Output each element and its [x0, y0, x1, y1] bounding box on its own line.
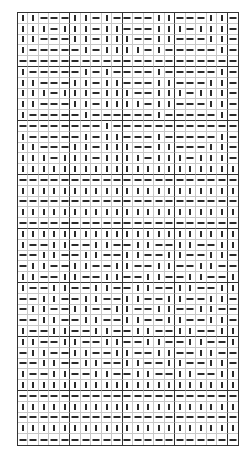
grid-cell[interactable] — [196, 164, 206, 175]
grid-cell[interactable] — [154, 13, 164, 24]
grid-cell[interactable] — [91, 369, 101, 380]
grid-cell[interactable] — [112, 402, 122, 413]
grid-cell[interactable] — [123, 35, 133, 46]
grid-cell[interactable] — [102, 110, 112, 121]
grid-cell[interactable] — [70, 337, 80, 348]
grid-cell[interactable] — [49, 89, 59, 100]
grid-cell[interactable] — [28, 261, 38, 272]
grid-cell[interactable] — [49, 99, 59, 110]
grid-cell[interactable] — [49, 434, 59, 445]
grid-cell[interactable] — [175, 186, 185, 197]
grid-cell[interactable] — [217, 153, 227, 164]
grid-cell[interactable] — [165, 294, 175, 305]
grid-cell[interactable] — [91, 283, 101, 294]
grid-cell[interactable] — [207, 326, 217, 337]
grid-cell[interactable] — [165, 380, 175, 391]
grid-cell[interactable] — [133, 326, 143, 337]
grid-cell[interactable] — [112, 132, 122, 143]
grid-cell[interactable] — [91, 56, 101, 67]
grid-cell[interactable] — [60, 434, 70, 445]
grid-cell[interactable] — [39, 337, 49, 348]
grid-cell[interactable] — [112, 348, 122, 359]
grid-cell[interactable] — [18, 348, 28, 359]
grid-cell[interactable] — [91, 153, 101, 164]
grid-cell[interactable] — [217, 391, 227, 402]
grid-cell[interactable] — [112, 24, 122, 35]
grid-cell[interactable] — [144, 153, 154, 164]
grid-cell[interactable] — [165, 240, 175, 251]
grid-cell[interactable] — [60, 423, 70, 434]
grid-cell[interactable] — [133, 89, 143, 100]
grid-cell[interactable] — [154, 423, 164, 434]
grid-cell[interactable] — [39, 369, 49, 380]
grid-cell[interactable] — [228, 402, 238, 413]
grid-cell[interactable] — [154, 110, 164, 121]
grid-cell[interactable] — [112, 380, 122, 391]
grid-cell[interactable] — [186, 45, 196, 56]
grid-cell[interactable] — [186, 67, 196, 78]
grid-cell[interactable] — [28, 99, 38, 110]
grid-cell[interactable] — [133, 413, 143, 424]
grid-cell[interactable] — [70, 56, 80, 67]
grid-cell[interactable] — [91, 251, 101, 262]
grid-cell[interactable] — [175, 326, 185, 337]
grid-cell[interactable] — [91, 197, 101, 208]
grid-cell[interactable] — [28, 13, 38, 24]
grid-cell[interactable] — [39, 251, 49, 262]
grid-cell[interactable] — [207, 13, 217, 24]
grid-cell[interactable] — [91, 337, 101, 348]
grid-cell[interactable] — [81, 67, 91, 78]
grid-cell[interactable] — [133, 305, 143, 316]
grid-cell[interactable] — [133, 143, 143, 154]
grid-cell[interactable] — [39, 175, 49, 186]
grid-cell[interactable] — [186, 13, 196, 24]
grid-cell[interactable] — [133, 337, 143, 348]
grid-cell[interactable] — [60, 326, 70, 337]
grid-cell[interactable] — [228, 35, 238, 46]
grid-cell[interactable] — [207, 24, 217, 35]
grid-cell[interactable] — [144, 197, 154, 208]
grid-cell[interactable] — [123, 132, 133, 143]
grid-cell[interactable] — [165, 413, 175, 424]
grid-cell[interactable] — [102, 35, 112, 46]
grid-cell[interactable] — [91, 67, 101, 78]
grid-cell[interactable] — [49, 45, 59, 56]
grid-cell[interactable] — [102, 413, 112, 424]
grid-cell[interactable] — [207, 402, 217, 413]
grid-cell[interactable] — [123, 143, 133, 154]
grid-cell[interactable] — [186, 186, 196, 197]
grid-cell[interactable] — [123, 110, 133, 121]
grid-cell[interactable] — [154, 45, 164, 56]
grid-cell[interactable] — [112, 369, 122, 380]
grid-cell[interactable] — [175, 197, 185, 208]
grid-cell[interactable] — [70, 283, 80, 294]
grid-cell[interactable] — [60, 337, 70, 348]
grid-cell[interactable] — [70, 305, 80, 316]
grid-cell[interactable] — [165, 402, 175, 413]
grid-cell[interactable] — [123, 423, 133, 434]
grid-cell[interactable] — [123, 24, 133, 35]
grid-cell[interactable] — [39, 186, 49, 197]
grid-cell[interactable] — [217, 326, 227, 337]
grid-cell[interactable] — [91, 24, 101, 35]
grid-cell[interactable] — [18, 402, 28, 413]
grid-cell[interactable] — [217, 175, 227, 186]
grid-cell[interactable] — [60, 143, 70, 154]
grid-cell[interactable] — [39, 197, 49, 208]
grid-cell[interactable] — [228, 121, 238, 132]
grid-cell[interactable] — [28, 132, 38, 143]
grid-cell[interactable] — [28, 315, 38, 326]
grid-cell[interactable] — [133, 186, 143, 197]
grid-cell[interactable] — [133, 153, 143, 164]
grid-cell[interactable] — [102, 240, 112, 251]
grid-cell[interactable] — [18, 229, 28, 240]
grid-cell[interactable] — [39, 294, 49, 305]
grid-cell[interactable] — [133, 67, 143, 78]
grid-cell[interactable] — [207, 89, 217, 100]
grid-cell[interactable] — [39, 24, 49, 35]
grid-cell[interactable] — [207, 45, 217, 56]
grid-cell[interactable] — [228, 99, 238, 110]
grid-cell[interactable] — [112, 143, 122, 154]
grid-cell[interactable] — [18, 369, 28, 380]
grid-cell[interactable] — [154, 56, 164, 67]
